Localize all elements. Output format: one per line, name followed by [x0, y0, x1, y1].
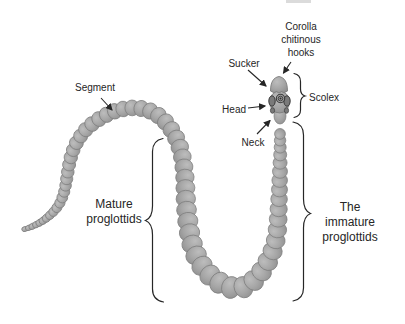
tapeworm-diagram: Segment Sucker Corolla chitinous hooks H… [0, 0, 405, 324]
sucker-center-dot [280, 98, 282, 100]
sucker-lower-right [284, 108, 288, 114]
sucker-left [269, 96, 275, 106]
mature-proglottids-label: Mature proglottids [86, 197, 141, 227]
sucker-label: Sucker [228, 57, 259, 70]
scolex-head [269, 77, 290, 125]
sucker-lower-left [270, 108, 274, 114]
mature-proglottids-brace [146, 139, 164, 303]
immature-proglottids-label: The immature proglottids [322, 200, 377, 245]
neck-arrow [257, 121, 270, 135]
neck-label: Neck [242, 136, 265, 149]
sucker-arrow [248, 70, 266, 86]
immature-proglottids-brace [293, 122, 311, 301]
scolex-brace [294, 74, 305, 118]
worm-segment [275, 128, 286, 139]
corolla-cap [271, 77, 288, 94]
worm-body [21, 99, 288, 300]
corolla-chitinous-hooks-label: Corolla chitinous hooks [281, 20, 320, 59]
top-edge-artifact [286, 0, 311, 3]
scolex-label: Scolex [309, 91, 339, 104]
head-arrow [248, 106, 265, 108]
segment-label: Segment [75, 81, 115, 94]
tapeworm-illustration [0, 0, 405, 324]
corolla-arrow [284, 62, 292, 73]
head-label: Head [206, 103, 246, 116]
